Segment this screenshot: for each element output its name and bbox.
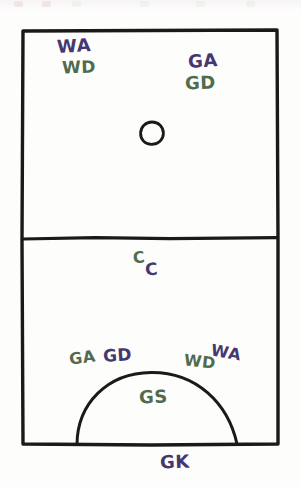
label-gk: GK [160,450,190,472]
label-gd-arc: GD [102,344,132,366]
label-gs: GS [139,386,168,408]
label-ga-top: GA [187,49,218,72]
label-ga-arc: GA [68,346,97,369]
label-gd-top: GD [185,71,216,93]
netball-court-diagram: WA WD GA GD C C GA GD WD WA GS GK [0,0,301,487]
center-third-line [23,238,277,239]
court-drawing [0,0,301,487]
label-c-purple: C [144,259,158,280]
goal-circle-arc [77,372,237,444]
label-wd-top: WD [62,56,97,77]
label-wa-top: WA [56,34,91,57]
center-circle [141,122,164,144]
paper-sheet: WA WD GA GD C C GA GD WD WA GS GK [0,0,301,487]
